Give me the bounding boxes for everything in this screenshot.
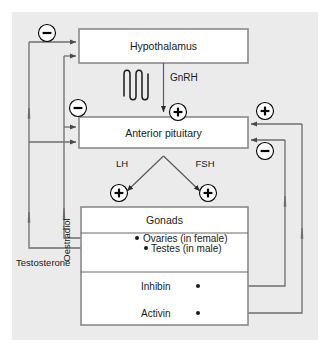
- plus-sign-fsh: [200, 185, 217, 202]
- gonads-label: Gonads: [146, 214, 183, 226]
- lh-label: LH: [116, 158, 128, 169]
- inhibin-dot: [196, 284, 200, 288]
- plus-sign-gnrh: [170, 104, 187, 121]
- activin-dot: [196, 311, 200, 315]
- minus-sign-pituitary: [70, 100, 87, 117]
- ovaries-dot: [135, 236, 139, 240]
- plus-sign-lh: [111, 185, 128, 202]
- testosterone-label: Testosterone: [16, 257, 70, 268]
- gnrh-label: GnRH: [170, 72, 198, 83]
- hypothalamus-label: Hypothalamus: [130, 40, 197, 52]
- minus-sign-inhibin: [257, 143, 274, 160]
- hpg-axis-diagram: Oestradiol Testosterone Hypothalamus GnR…: [0, 0, 332, 352]
- activin-label: Activin: [141, 308, 170, 319]
- minus-sign-hypothalamus: [39, 25, 56, 42]
- inhibin-label: Inhibin: [141, 281, 170, 292]
- plus-sign-activin: [257, 103, 274, 120]
- anterior-pituitary-label: Anterior pituitary: [125, 127, 202, 139]
- testes-dot: [144, 246, 148, 250]
- testes-label: Testes (in male): [151, 243, 222, 254]
- oestradiol-label: Oestradiol: [61, 218, 72, 261]
- figure-root: Oestradiol Testosterone Hypothalamus GnR…: [0, 0, 332, 352]
- fsh-label: FSH: [196, 158, 215, 169]
